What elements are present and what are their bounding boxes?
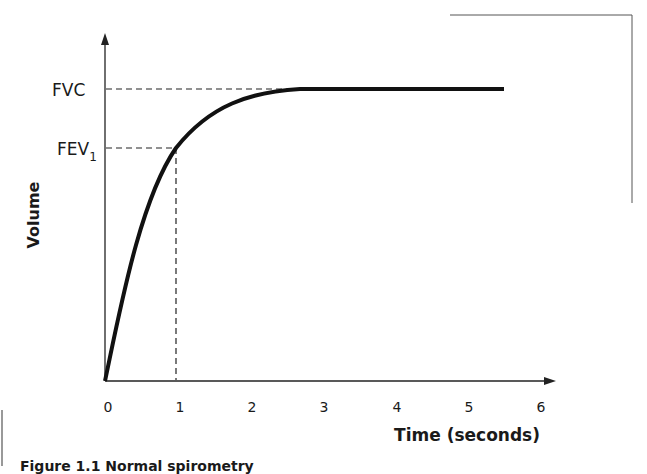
fev1-label: FEV1 [57,139,97,164]
x-tick-6: 6 [537,399,546,415]
x-tick-5: 5 [465,399,474,415]
x-tick-0: 0 [104,399,113,415]
x-tick-1: 1 [176,399,185,415]
y-axis-title: Volume [24,181,43,248]
volume-time-curve [105,89,504,381]
x-tick-3: 3 [320,399,329,415]
figure-caption: Figure 1.1 Normal spirometry [20,458,254,474]
x-tick-4: 4 [393,399,402,415]
y-axis-arrow-icon [101,33,109,45]
fvc-label: FVC [52,80,85,100]
x-axis-arrow-icon [544,377,556,385]
x-tick-2: 2 [248,399,257,415]
x-axis-title: Time (seconds) [394,425,540,445]
